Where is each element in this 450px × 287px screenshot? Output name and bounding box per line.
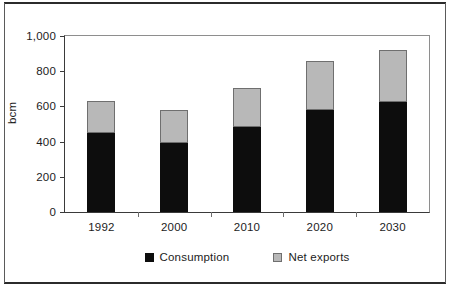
legend-item[interactable]: Consumption bbox=[145, 251, 230, 263]
figure-left-rule bbox=[4, 3, 5, 283]
plot-area: 02004006008001,000 19922000201020202030 bbox=[64, 35, 430, 213]
x-axis-tick-label: 2010 bbox=[234, 221, 260, 233]
legend-label: Consumption bbox=[160, 251, 230, 263]
y-axis-tick-label: 600 bbox=[36, 100, 56, 112]
x-axis-tick bbox=[211, 212, 212, 217]
legend-item[interactable]: Net exports bbox=[273, 251, 349, 263]
x-axis-tick-label: 2020 bbox=[307, 221, 333, 233]
y-axis-title: bcm bbox=[6, 102, 18, 124]
bar-segment[interactable] bbox=[379, 50, 407, 102]
y-axis-tick bbox=[60, 36, 65, 37]
legend-label: Net exports bbox=[288, 251, 349, 263]
y-axis-tick-label: 400 bbox=[36, 136, 56, 148]
bar-group[interactable] bbox=[379, 36, 407, 212]
bar-segment[interactable] bbox=[306, 61, 334, 110]
legend-swatch-icon bbox=[273, 253, 282, 262]
y-axis-tick bbox=[60, 177, 65, 178]
y-axis-tick-label: 0 bbox=[49, 206, 56, 218]
figure-top-rule bbox=[4, 2, 446, 4]
bar-group[interactable] bbox=[233, 36, 261, 212]
x-axis-tick bbox=[356, 212, 357, 217]
y-axis-tick bbox=[60, 106, 65, 107]
y-axis-tick-label: 800 bbox=[36, 65, 56, 77]
y-axis-tick bbox=[60, 142, 65, 143]
legend-swatch-icon bbox=[145, 253, 154, 262]
x-axis-tick bbox=[283, 212, 284, 217]
y-axis-tick-label: 1,000 bbox=[26, 30, 56, 42]
x-axis-tick-label: 2000 bbox=[161, 221, 187, 233]
y-axis-tick bbox=[60, 212, 65, 213]
bar-segment[interactable] bbox=[87, 133, 115, 212]
figure: bcm 02004006008001,000 19922000201020202… bbox=[0, 0, 450, 287]
bar-segment[interactable] bbox=[306, 110, 334, 212]
bar-group[interactable] bbox=[306, 36, 334, 212]
bar-segment[interactable] bbox=[160, 143, 188, 212]
bar-segment[interactable] bbox=[379, 102, 407, 212]
x-axis-tick bbox=[138, 212, 139, 217]
figure-bottom-rule bbox=[4, 282, 446, 284]
figure-right-rule bbox=[445, 3, 446, 283]
x-axis-tick-label: 1992 bbox=[88, 221, 114, 233]
bar-segment[interactable] bbox=[233, 88, 261, 127]
bar-segment[interactable] bbox=[233, 127, 261, 212]
legend: ConsumptionNet exports bbox=[64, 248, 430, 266]
y-axis-tick-label: 200 bbox=[36, 171, 56, 183]
bar-segment[interactable] bbox=[160, 110, 188, 143]
bar-group[interactable] bbox=[160, 36, 188, 212]
y-axis-tick bbox=[60, 71, 65, 72]
x-axis-tick-label: 2030 bbox=[379, 221, 405, 233]
bar-group[interactable] bbox=[87, 36, 115, 212]
bar-segment[interactable] bbox=[87, 101, 115, 133]
